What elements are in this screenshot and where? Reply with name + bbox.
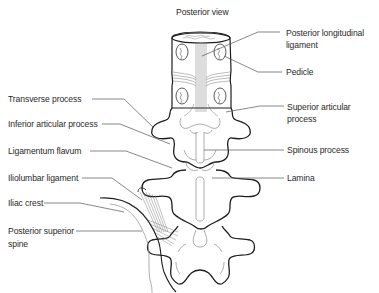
label-ligamentum-flavum: Ligamentum flavum [8,145,81,158]
label-iliolumbar-ligament: Iliolumbar ligament [8,172,78,185]
label-posterior-superior-spine-line2: spine [8,238,28,251]
label-posterior-superior-spine-line1: Posterior superior [8,225,74,238]
label-posterior-longitudinal-ligament-line2: ligament [286,39,318,52]
pedicle-ovals [176,44,226,104]
label-superior-articular-process-line1: Superior articular [287,101,351,114]
vertebral-bodies [172,32,231,108]
upper-vertebra [152,108,251,168]
ilium [100,198,176,293]
lumbar-spine-diagram: Posterior view Posterior longitudinal li… [0,0,379,293]
diagram-title: Posterior view [176,6,229,19]
label-inferior-articular-process: Inferior articular process [8,118,98,131]
label-pedicle: Pedicle [286,66,314,79]
lower-vertebra [148,226,255,284]
label-spinous-process: Spinous process [287,144,349,157]
label-superior-articular-process-line2: process [287,113,316,126]
label-posterior-longitudinal-ligament-line1: Posterior longitudinal [286,27,364,40]
middle-vertebra [142,170,260,229]
posterior-longitudinal-ligament [173,42,230,116]
label-lamina: Lamina [287,172,315,185]
label-iliac-crest: Iliac crest [8,197,43,210]
leader-lines [44,32,284,231]
label-transverse-process: Transverse process [8,93,81,106]
